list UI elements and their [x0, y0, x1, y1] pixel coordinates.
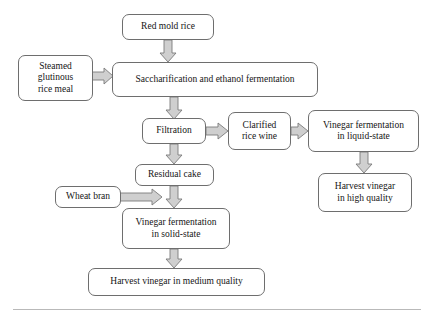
node-harvest-high-line2: in high quality: [334, 193, 395, 204]
node-steamed-glutinous-rice-meal-line2: glutinous: [35, 72, 76, 83]
arrow-red-mold-rice-to-saccharification: [160, 40, 176, 62]
bottom-divider-rule: [13, 309, 421, 310]
node-filtration-label: Filtration: [153, 125, 194, 136]
node-steamed-glutinous-rice-meal-line1: Steamed: [36, 61, 75, 72]
node-harvest-high-line1: Harvest vinegar: [332, 181, 398, 192]
flowchart-canvas: Red mold rice Steamed glutinous rice mea…: [0, 0, 434, 316]
node-harvest-vinegar-in-medium-quality[interactable]: Harvest vinegar in medium quality: [88, 268, 265, 296]
arrow-residual-cake-to-vinegar-solid: [166, 186, 182, 208]
node-harvest-medium-label: Harvest vinegar in medium quality: [107, 276, 245, 287]
arrow-steamed-rice-to-saccharification: [92, 68, 113, 84]
node-vinegar-liquid-line1: Vinegar fermentation: [320, 120, 407, 131]
arrow-saccharification-to-filtration: [166, 97, 182, 119]
node-wheat-bran-label: Wheat bran: [63, 191, 113, 202]
node-red-mold-rice[interactable]: Red mold rice: [122, 14, 214, 40]
node-filtration[interactable]: Filtration: [142, 118, 206, 144]
arrow-clarified-rice-wine-to-vinegar-liquid: [291, 123, 308, 139]
node-steamed-glutinous-rice-meal-line3: rice meal: [35, 84, 76, 95]
arrow-filtration-to-clarified-rice-wine: [206, 123, 228, 139]
node-harvest-vinegar-in-high-quality[interactable]: Harvest vinegar in high quality: [318, 173, 412, 212]
node-residual-cake-label: Residual cake: [145, 169, 204, 180]
node-saccharification-label: Saccharification and ethanol fermentatio…: [132, 74, 297, 85]
node-clarified-rice-wine[interactable]: Clarified rice wine: [228, 112, 291, 150]
node-red-mold-rice-label: Red mold rice: [138, 21, 198, 32]
node-clarified-rice-wine-line1: Clarified: [240, 120, 280, 131]
node-clarified-rice-wine-line2: rice wine: [239, 131, 280, 142]
node-wheat-bran[interactable]: Wheat bran: [55, 186, 121, 208]
node-residual-cake[interactable]: Residual cake: [135, 164, 214, 186]
node-vinegar-solid-line1: Vinegar fermentation: [133, 217, 220, 228]
node-vinegar-solid-line2: in solid-state: [149, 229, 204, 240]
node-vinegar-fermentation-in-liquid-state[interactable]: Vinegar fermentation in liquid-state: [308, 110, 419, 152]
arrow-wheat-bran-to-vinegar-solid: [120, 189, 162, 205]
node-saccharification-and-ethanol-fermentation[interactable]: Saccharification and ethanol fermentatio…: [112, 62, 318, 97]
node-steamed-glutinous-rice-meal[interactable]: Steamed glutinous rice meal: [18, 55, 93, 101]
arrow-filtration-to-residual-cake: [166, 144, 182, 164]
arrow-vinegar-solid-to-harvest-medium: [166, 249, 182, 268]
node-vinegar-fermentation-in-solid-state[interactable]: Vinegar fermentation in solid-state: [122, 208, 230, 249]
node-vinegar-liquid-line2: in liquid-state: [334, 131, 393, 142]
arrow-vinegar-liquid-to-harvest-high: [356, 152, 372, 173]
